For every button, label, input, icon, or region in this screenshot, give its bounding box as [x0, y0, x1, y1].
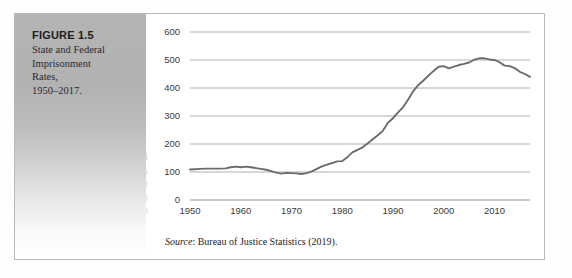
x-axis-tick-label: 1990 — [382, 205, 403, 216]
figure-page: for these offenses. and violent crime st… — [0, 0, 572, 278]
figure-caption-text-block: FIGURE 1.5 State and Federal Imprisonmen… — [32, 29, 140, 97]
figure-caption-line: 1950–2017. — [32, 84, 140, 98]
line-chart-plot: 0100200300400500600 19501960197019801990… — [152, 14, 544, 234]
y-axis-tick-label: 400 — [164, 82, 180, 93]
source-prefix: Source — [165, 236, 192, 247]
y-axis-tick-label: 200 — [164, 138, 180, 149]
y-axis-tick-label: 300 — [164, 110, 180, 121]
figure-caption-line: Imprisonment — [32, 57, 140, 71]
y-axis-tick-labels: 0100200300400500600 — [164, 26, 180, 205]
x-axis-tick-label: 1950 — [179, 205, 200, 216]
y-axis-tick-label: 0 — [175, 194, 180, 205]
x-axis-tick-label: 1970 — [281, 205, 302, 216]
x-axis-tick-label: 1960 — [230, 205, 251, 216]
figure-number-label: FIGURE 1.5 — [32, 29, 140, 41]
y-axis-tick-label: 600 — [164, 26, 180, 37]
source-note: Source: Bureau of Justice Statistics (20… — [165, 236, 337, 247]
chart-area: 0100200300400500600 19501960197019801990… — [152, 14, 544, 259]
x-axis-tick-label: 2000 — [433, 205, 454, 216]
figure-caption-line: Rates, — [32, 70, 140, 84]
x-axis-tick-labels: 1950196019701980199020002010 — [179, 205, 505, 216]
source-citation: : Bureau of Justice Statistics (2019). — [192, 236, 337, 247]
x-axis-tick-label: 2010 — [484, 205, 505, 216]
y-axis-tick-label: 100 — [164, 166, 180, 177]
gridlines-group — [190, 32, 530, 200]
x-axis-tick-label: 1980 — [332, 205, 353, 216]
y-axis-tick-label: 500 — [164, 54, 180, 65]
figure-caption-panel: FIGURE 1.5 State and Federal Imprisonmen… — [15, 14, 146, 259]
figure-caption-line: State and Federal — [32, 43, 140, 57]
